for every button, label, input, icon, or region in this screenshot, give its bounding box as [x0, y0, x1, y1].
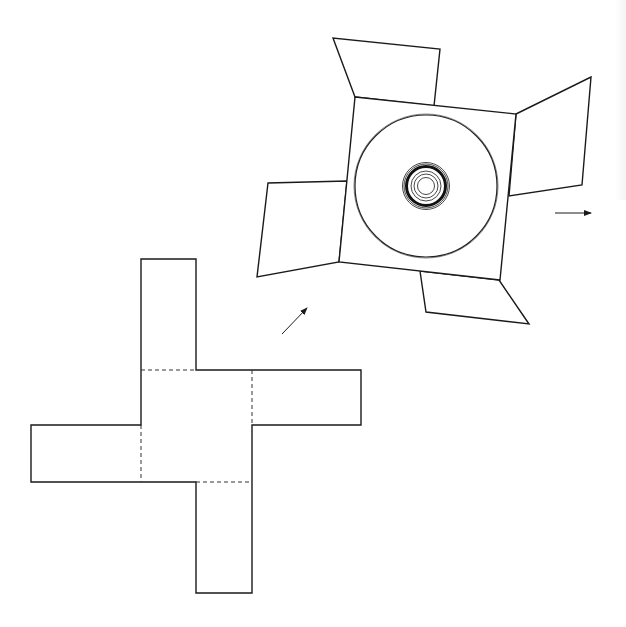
cross-template [31, 259, 361, 593]
diagonal-arrow-icon [282, 308, 307, 334]
center-square [339, 97, 516, 280]
flap-left [257, 181, 347, 277]
disc-package [257, 38, 591, 324]
cross-outline [31, 259, 361, 593]
flap-right [509, 77, 591, 196]
flap-bottom [420, 271, 529, 324]
flap-top [333, 38, 440, 106]
diagram-canvas [0, 0, 626, 627]
